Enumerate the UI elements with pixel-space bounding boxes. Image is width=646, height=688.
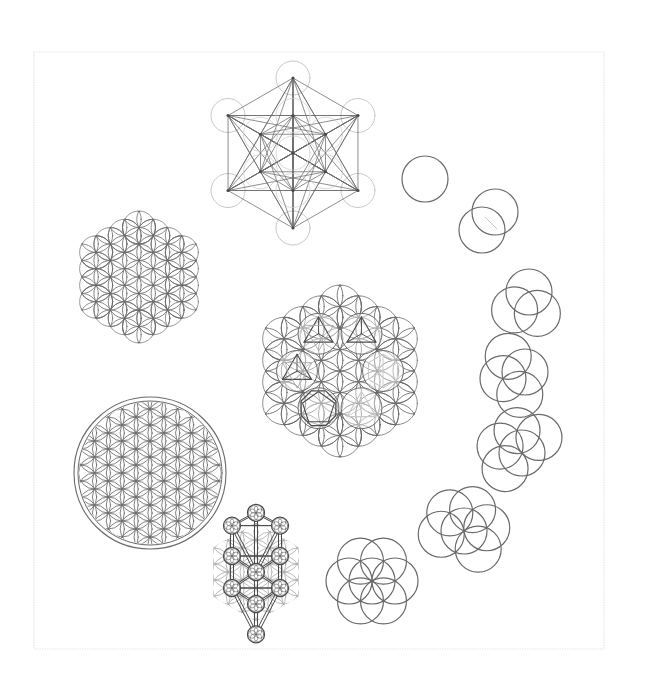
line-segment <box>228 78 293 116</box>
circle-shape <box>134 377 166 409</box>
vertex-dot <box>291 151 294 154</box>
metatrons-cube <box>211 61 375 245</box>
flower-of-life-hexagon <box>65 195 212 360</box>
line-segment <box>228 191 293 229</box>
vertex-dot <box>356 114 359 117</box>
circle-shape <box>65 433 97 465</box>
vertex-dot <box>226 189 229 192</box>
line-segment <box>293 78 358 116</box>
vertex-dot <box>291 189 294 192</box>
vertex-dot <box>226 114 229 117</box>
tree-of-life <box>198 504 313 643</box>
circle-shape <box>459 207 505 253</box>
vertex-dot <box>259 170 262 173</box>
genesis-step-6 <box>418 487 510 572</box>
circle-shape <box>65 417 97 449</box>
flower-of-life-circle <box>65 377 236 569</box>
genesis-step-3 <box>492 269 561 336</box>
hexahedron-solid <box>363 351 404 392</box>
tetrahedron-solid <box>341 313 382 354</box>
octahedron-solid <box>277 351 318 392</box>
genesis-step-1 <box>402 156 448 202</box>
circle-shape <box>203 417 235 449</box>
circle-shape <box>134 537 166 569</box>
vertex-dot <box>259 133 262 136</box>
vertex-dot <box>356 189 359 192</box>
circle-shape <box>402 156 448 202</box>
line-segment <box>301 402 303 403</box>
genesis-step-7 <box>326 538 418 624</box>
circle-shape <box>65 481 97 513</box>
vertex-dot <box>291 114 294 117</box>
line-segment <box>293 191 358 229</box>
circle-shape <box>472 189 518 235</box>
vertex-dot <box>291 76 294 79</box>
circle-shape <box>203 481 235 513</box>
vertex-dot <box>291 226 294 229</box>
genesis-step-2 <box>459 189 518 253</box>
line-segment <box>334 402 336 403</box>
genesis-step-5 <box>477 408 562 492</box>
line-segment <box>485 217 497 229</box>
dodecahedron-solid <box>298 388 339 429</box>
icosahedron-solid <box>341 388 382 429</box>
genesis-step-4 <box>480 333 548 417</box>
sacred-geometry-canvas <box>0 0 646 688</box>
vertex-dot <box>324 170 327 173</box>
circle-shape <box>65 497 97 529</box>
vertex-dot <box>324 133 327 136</box>
central-platonic-solids-hexagon <box>244 264 436 479</box>
star-tetrahedron-solid <box>298 313 339 354</box>
circle-shape <box>203 433 235 465</box>
